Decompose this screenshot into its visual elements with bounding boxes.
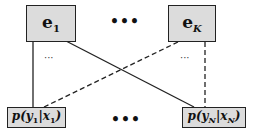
expert-label-k: eK (182, 12, 202, 34)
edge-eK-y1 (44, 42, 178, 107)
ellipsis-bottom: ••• (111, 111, 141, 127)
ellipsis-left: ··· (44, 52, 54, 63)
edge-e1-yN (66, 41, 194, 107)
output-label-1: p(y1|x1) (12, 109, 61, 125)
expert-box-k: eK (168, 5, 216, 42)
expert-label-1: e1 (42, 12, 60, 34)
output-box-1: p(y1|x1) (7, 107, 66, 128)
ellipsis-right: ··· (180, 52, 190, 63)
expert-box-1: e1 (26, 5, 76, 42)
ellipsis-top: ••• (110, 13, 140, 29)
output-box-n: p(yN|xN) (182, 107, 246, 128)
output-label-n: p(yN|xN) (188, 109, 241, 125)
